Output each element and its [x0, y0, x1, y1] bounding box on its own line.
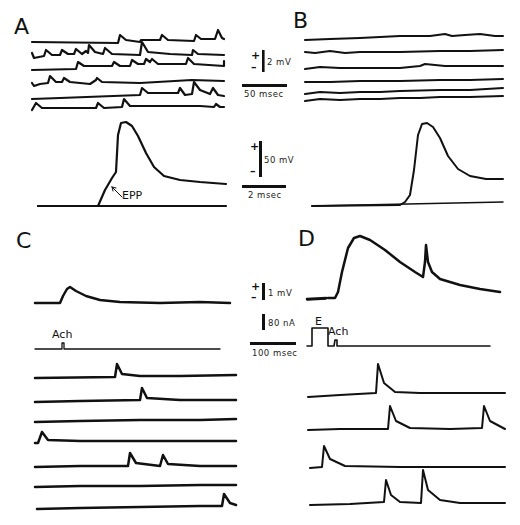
scale-top-time-label: 50 msec [244, 89, 284, 99]
e-label-d: E [315, 315, 322, 328]
epp-label: EPP [122, 189, 142, 202]
scale-middle-voltage-label: 50 mV [264, 155, 294, 165]
scale-middle-time-label: 2 msec [248, 190, 282, 200]
figure-traces [0, 0, 520, 525]
scale-bar-80na [262, 314, 265, 330]
scale-bar-top [242, 50, 287, 87]
scale-top-minus: – [251, 62, 257, 73]
panel-c-sweeps [35, 364, 236, 509]
ach-label-d: Ach [328, 325, 348, 338]
scale-bar-50msec [242, 84, 287, 87]
panel-c-ach-marker-trace [35, 343, 220, 349]
scale-bar-2mv [262, 50, 265, 72]
panel-d-sweeps [308, 364, 505, 505]
scale-middle-minus: – [250, 166, 256, 177]
panel-b-sweeps [305, 34, 503, 101]
scale-bottom-time-label: 100 msec [252, 348, 298, 358]
scale-bar-50mv [259, 141, 262, 177]
ach-label-c: Ach [52, 328, 72, 341]
scale-bottom-current-label: 80 nA [268, 318, 295, 328]
panel-d-ach-response [307, 236, 500, 300]
panel-b-action-potential [312, 123, 503, 206]
scale-bottom-voltage-label: 1 mV [268, 288, 292, 298]
scale-bottom-minus: – [251, 292, 257, 303]
panel-a-sweeps [32, 30, 224, 110]
scale-bar-2msec [242, 185, 286, 188]
scale-top-plus: + [251, 50, 260, 61]
scale-middle-plus: + [250, 141, 259, 152]
scale-top-voltage-label: 2 mV [267, 57, 291, 67]
scale-bar-1mv [262, 283, 265, 300]
scale-bar-100msec [250, 342, 296, 345]
panel-c-ach-response [35, 287, 230, 303]
